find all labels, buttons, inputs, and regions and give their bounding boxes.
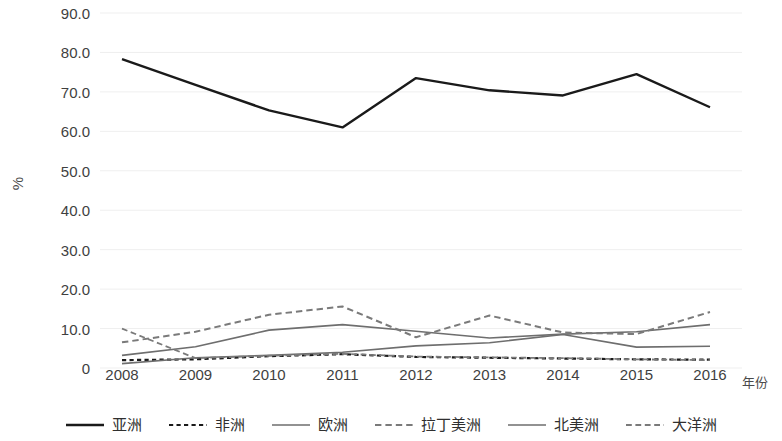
y-axis-tick-label: 30.0 bbox=[28, 241, 90, 258]
y-axis-tick-label: 80.0 bbox=[28, 44, 90, 61]
legend-line-swatch bbox=[65, 419, 105, 431]
y-axis-tick-label: 70.0 bbox=[28, 83, 90, 100]
legend-line-swatch bbox=[271, 419, 311, 431]
series-lines bbox=[122, 59, 710, 364]
y-axis-title: % bbox=[9, 169, 26, 199]
x-axis-tick-label: 2013 bbox=[473, 366, 506, 383]
y-axis-ticks: 010.020.030.040.050.060.070.080.090.0 bbox=[22, 0, 90, 441]
legend-item[interactable]: 亚洲 bbox=[65, 417, 142, 432]
chart-legend: 亚洲非洲欧洲拉丁美洲北美洲大洋洲 bbox=[0, 408, 782, 441]
x-axis-tick-label: 2008 bbox=[105, 366, 138, 383]
x-axis-tick-label: 2010 bbox=[252, 366, 285, 383]
x-axis-tick-label: 2011 bbox=[326, 366, 358, 383]
legend-label: 欧洲 bbox=[318, 417, 348, 432]
legend-line-swatch bbox=[625, 419, 665, 431]
legend-label: 亚洲 bbox=[112, 417, 142, 432]
legend-item[interactable]: 北美洲 bbox=[507, 417, 599, 432]
y-axis-tick-label: 40.0 bbox=[28, 202, 90, 219]
y-axis-tick-label: 0 bbox=[28, 360, 90, 377]
series-line bbox=[122, 59, 710, 127]
y-axis-tick-label: 60.0 bbox=[28, 123, 90, 140]
legend-line-swatch bbox=[507, 419, 547, 431]
gridlines bbox=[100, 13, 742, 368]
legend-label: 非洲 bbox=[215, 417, 245, 432]
x-axis-tick-label: 2016 bbox=[693, 366, 726, 383]
legend-item[interactable]: 拉丁美洲 bbox=[374, 417, 481, 432]
y-axis-tick-label: 20.0 bbox=[28, 281, 90, 298]
x-axis-tick-label: 2012 bbox=[399, 366, 432, 383]
x-axis-tick-label: 2009 bbox=[179, 366, 212, 383]
y-axis-tick-label: 10.0 bbox=[28, 320, 90, 337]
series-line bbox=[122, 334, 710, 363]
legend-item[interactable]: 大洋洲 bbox=[625, 417, 717, 432]
x-axis-title: 年份 bbox=[742, 372, 768, 391]
legend-item[interactable]: 欧洲 bbox=[271, 417, 348, 432]
legend-label: 大洋洲 bbox=[672, 417, 717, 432]
y-axis-tick-label: 50.0 bbox=[28, 162, 90, 179]
x-axis-tick-label: 2015 bbox=[620, 366, 653, 383]
x-axis-tick-label: 2014 bbox=[546, 366, 579, 383]
legend-item[interactable]: 非洲 bbox=[168, 417, 245, 432]
legend-label: 拉丁美洲 bbox=[421, 417, 481, 432]
y-axis-tick-label: 90.0 bbox=[28, 5, 90, 22]
legend-line-swatch bbox=[374, 419, 414, 431]
line-chart: 010.020.030.040.050.060.070.080.090.0 20… bbox=[0, 0, 782, 441]
series-line bbox=[122, 306, 710, 342]
legend-line-swatch bbox=[168, 419, 208, 431]
legend-label: 北美洲 bbox=[554, 417, 599, 432]
